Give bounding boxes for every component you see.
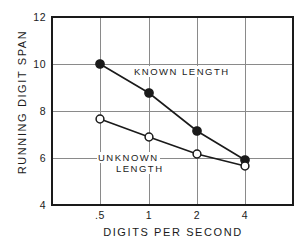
plot-area bbox=[0, 0, 308, 250]
data-point-known-2 bbox=[193, 127, 201, 135]
annotation-known-length: KNOWN LENGTH bbox=[133, 66, 231, 77]
data-point-unknown-3 bbox=[241, 162, 249, 170]
annotation-unknown-length-line2: LENGTH bbox=[115, 163, 165, 174]
data-point-unknown-1 bbox=[145, 133, 153, 141]
annotation-unknown-length-line1: UNKNOWN bbox=[97, 152, 160, 163]
data-point-known-0 bbox=[96, 60, 104, 68]
data-point-unknown-2 bbox=[193, 150, 201, 158]
data-point-known-1 bbox=[145, 89, 153, 97]
data-point-unknown-0 bbox=[96, 115, 104, 123]
chart-figure: RUNNING DIGIT SPAN 12 10 8 6 4 .5 1 2 4 … bbox=[0, 0, 308, 250]
